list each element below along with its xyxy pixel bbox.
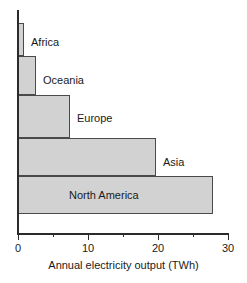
bar-label-north-america: North America bbox=[69, 190, 139, 201]
bar-europe bbox=[18, 95, 70, 138]
x-tick-label-30: 30 bbox=[222, 242, 234, 254]
x-axis-title: Annual electricity output (TWh) bbox=[0, 259, 247, 272]
x-tick-label-0: 0 bbox=[15, 242, 21, 254]
x-tick-20 bbox=[158, 233, 159, 240]
bar-label-africa: Africa bbox=[31, 37, 59, 48]
x-tick-5 bbox=[53, 233, 54, 237]
y-axis-spine bbox=[17, 10, 19, 234]
bar-label-europe: Europe bbox=[77, 113, 112, 124]
bar-label-oceania: Oceania bbox=[43, 75, 84, 86]
x-tick-25 bbox=[193, 233, 194, 237]
bar-label-asia: Asia bbox=[163, 157, 184, 168]
plot-area: Africa Oceania Europe Asia North America… bbox=[0, 0, 247, 283]
bar-chart: Africa Oceania Europe Asia North America… bbox=[0, 0, 247, 283]
bar-oceania bbox=[18, 56, 36, 95]
x-tick-30 bbox=[228, 233, 229, 240]
x-tick-label-20: 20 bbox=[152, 242, 164, 254]
x-tick-15 bbox=[123, 233, 124, 237]
bar-asia bbox=[18, 138, 156, 176]
x-tick-label-10: 10 bbox=[82, 242, 94, 254]
x-tick-10 bbox=[88, 233, 89, 240]
x-tick-0 bbox=[18, 233, 19, 240]
